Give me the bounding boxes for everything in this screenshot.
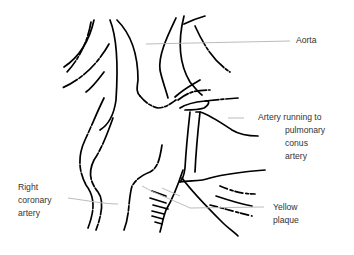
label-conus-line-1: Artery running to xyxy=(258,111,322,124)
label-plaque-line-1: Yellow xyxy=(273,201,298,214)
label-rca-line-1: Right xyxy=(18,181,38,194)
label-conus-line-2: pulmonary xyxy=(285,124,325,137)
label-rca-line-3: artery xyxy=(18,207,40,220)
aorta-leader-line xyxy=(146,41,290,44)
label-rca-line-2: coronary xyxy=(18,194,51,207)
label-conus-line-4: artery xyxy=(285,150,307,163)
label-aorta: Aorta xyxy=(296,34,317,47)
coronary-artery-diagram: Aorta Artery running to pulmonary conus … xyxy=(0,0,354,255)
label-conus-line-3: conus xyxy=(285,137,308,150)
label-plaque-line-2: plaque xyxy=(273,214,299,227)
